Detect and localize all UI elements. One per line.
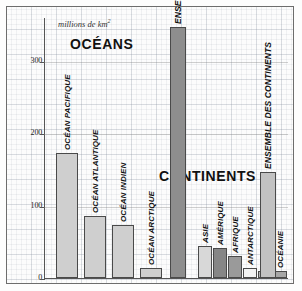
bar-antarctique[interactable]: ANTARCTIQUE [243,268,257,278]
gridline [44,62,288,63]
bar-label: ENSEMBLE DES OCÉANS [173,0,183,24]
bar-am-rique[interactable]: AMÉRIQUE [213,248,227,278]
chart-figure: millions de km2 OCÉANS CONTINENTS 300200… [0,0,302,291]
bar-afrique[interactable]: AFRIQUE [228,256,242,278]
bar-label: AFRIQUE [231,217,240,254]
bar-ensemble-des-continents[interactable]: ENSEMBLE DES CONTINENTS [260,172,276,278]
y-tick-label: 200 [31,128,42,137]
bar-label: ANTARCTIQUE [246,206,255,265]
bar-label: OCÉAN ARCTIQUE [147,191,156,265]
y-tick-label: 100 [31,201,42,210]
bar-oc-an-arctique[interactable]: OCÉAN ARCTIQUE [140,268,162,278]
bar-asie[interactable]: ASIE [198,246,212,278]
bar-label: ASIE [201,224,210,243]
bar-label: OCÉAN INDIEN [119,163,128,222]
y-tick-label: 0 [38,273,42,282]
plot-area: 3002001000 OCÉAN PACIFIQUEOCÉAN ATLANTIQ… [44,18,288,279]
bar-label: OCÉAN ATLANTIQUE [91,129,100,212]
bar-label: AMÉRIQUE [216,201,225,245]
bar-label: ENSEMBLE DES CONTINENTS [263,42,273,169]
bar-oc-an-atlantique[interactable]: OCÉAN ATLANTIQUE [84,216,106,278]
bar-label: OCÉAN PACIFIQUE [63,74,72,150]
bar-oc-an-pacifique[interactable]: OCÉAN PACIFIQUE [56,153,78,278]
bar-oc-an-indien[interactable]: OCÉAN INDIEN [112,225,134,278]
y-tick-label: 300 [31,56,42,65]
y-axis [44,18,45,279]
x-axis [44,278,288,279]
bar-label: OCÉANIE [276,231,285,268]
gridline [44,134,288,135]
y-tick-mark [40,279,45,280]
bar-ensemble-des-oc-ans[interactable]: ENSEMBLE DES OCÉANS [170,27,186,278]
